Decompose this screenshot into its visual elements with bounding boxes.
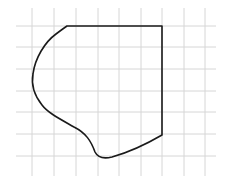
grid-lines — [16, 8, 216, 176]
shape-outline — [32, 26, 162, 158]
grid-diagram — [0, 0, 226, 188]
